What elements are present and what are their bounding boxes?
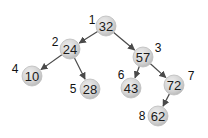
node-value: 43 xyxy=(124,81,138,96)
tree-edges xyxy=(41,31,169,106)
node-value: 57 xyxy=(136,50,150,65)
edge-arrow-72-to-62 xyxy=(163,94,169,106)
node-index-label: 7 xyxy=(188,69,195,83)
binary-tree-diagram: 321242573104285436727628 xyxy=(0,0,208,138)
edge-arrow-57-to-72 xyxy=(150,64,165,78)
tree-node-32: 321 xyxy=(89,13,116,36)
node-index-label: 1 xyxy=(89,13,96,27)
node-value: 24 xyxy=(63,42,77,57)
node-index-label: 2 xyxy=(52,35,59,49)
node-value: 28 xyxy=(83,82,97,97)
edge-arrow-24-to-28 xyxy=(74,58,85,79)
node-value: 32 xyxy=(99,19,113,34)
tree-nodes: 321242573104285436727628 xyxy=(12,13,195,126)
tree-node-57: 573 xyxy=(133,41,162,67)
tree-node-24: 242 xyxy=(52,35,80,59)
node-value: 10 xyxy=(25,69,39,84)
tree-node-62: 628 xyxy=(139,106,168,126)
edge-arrow-57-to-43 xyxy=(135,66,139,77)
edge-arrow-32-to-24 xyxy=(79,31,97,43)
tree-node-28: 285 xyxy=(70,79,100,99)
node-index-label: 6 xyxy=(118,68,125,82)
edge-arrow-32-to-57 xyxy=(114,32,135,50)
node-index-label: 5 xyxy=(70,82,77,96)
node-value: 72 xyxy=(167,78,181,93)
node-index-label: 4 xyxy=(12,62,19,76)
node-index-label: 8 xyxy=(139,109,146,123)
edge-arrow-24-to-10 xyxy=(41,55,62,70)
node-index-label: 3 xyxy=(155,41,162,55)
node-value: 62 xyxy=(151,109,165,124)
tree-node-72: 727 xyxy=(164,69,195,95)
tree-node-10: 104 xyxy=(12,62,42,86)
